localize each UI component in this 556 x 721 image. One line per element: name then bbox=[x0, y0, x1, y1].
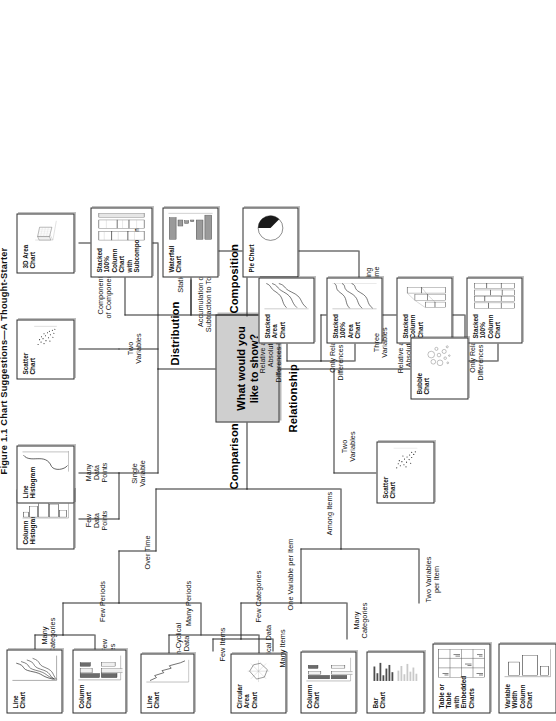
connector-manyitems-h bbox=[272, 638, 273, 651]
card-caption: Table or Table with Embedded Charts bbox=[433, 679, 489, 712]
card-column-chart-single-few-categories[interactable]: Column Chart bbox=[72, 649, 126, 713]
label-among-items: Among Items bbox=[325, 487, 333, 539]
connector-manycat-h bbox=[34, 634, 35, 649]
scatter-chart-relationship-icon bbox=[380, 446, 430, 472]
line-chart-non-cyclical-icon bbox=[144, 658, 190, 683]
stacked-100-column-chart-icon bbox=[470, 282, 518, 310]
card-bar-chart-many-items[interactable]: Bar Chart bbox=[366, 651, 424, 713]
stacked-100-area-chart-icon bbox=[330, 282, 378, 310]
card-scatter-chart-distribution[interactable]: Scatter Chart bbox=[16, 319, 74, 379]
connector-comp-manyperiods-h bbox=[320, 314, 321, 361]
connector-onlyrel-many-h bbox=[354, 343, 355, 361]
connector-relationship-split bbox=[333, 368, 334, 473]
connector-components-h bbox=[124, 273, 125, 315]
connector-rel-threevars-v bbox=[333, 368, 410, 369]
bubble-chart-icon bbox=[414, 342, 464, 368]
card-caption: Bar Chart bbox=[367, 683, 423, 712]
stacked-column-chart-icon bbox=[400, 282, 448, 310]
card-stacked-column-chart[interactable]: Stacked Column Chart bbox=[396, 277, 452, 343]
card-table-embedded-charts[interactable]: Table or Table with Embedded Charts bbox=[432, 643, 490, 713]
card-3d-area-chart[interactable]: 3D Area Chart bbox=[16, 213, 74, 273]
connector-manyitems-v bbox=[240, 638, 272, 639]
card-stacked-area-chart[interactable]: Stacked Area Chart bbox=[258, 277, 314, 343]
connector-amongitems-col bbox=[340, 548, 418, 549]
scatter-chart-distribution-icon bbox=[20, 324, 70, 349]
card-caption: 3D Area Chart bbox=[17, 244, 73, 272]
card-line-chart-non-cyclical[interactable]: Line Chart bbox=[140, 653, 194, 713]
category-distribution: Distribution bbox=[168, 301, 180, 365]
label-many-data-points: Many Data Points bbox=[84, 451, 108, 493]
label-two-variables-per-item: Two Variables per Item bbox=[424, 547, 441, 611]
connector-center-relationship bbox=[277, 368, 333, 369]
column-chart-few-categories-icon bbox=[76, 654, 122, 681]
label-few-data-points: Few Data Points bbox=[84, 499, 108, 541]
card-caption: Scatter Chart bbox=[17, 350, 73, 378]
card-variable-width-column-chart[interactable]: Variable Width Column Chart bbox=[498, 643, 556, 713]
card-caption: Circular Area Chart bbox=[231, 684, 285, 712]
card-caption: Column Chart bbox=[301, 683, 355, 712]
card-scatter-chart-relationship[interactable]: Scatter Chart bbox=[376, 441, 434, 503]
connector-manyperiods-h bbox=[200, 602, 201, 635]
card-caption: Line Histogram bbox=[17, 474, 73, 502]
card-line-histogram[interactable]: Line Histogram bbox=[16, 445, 74, 503]
connector-rel-twovars-v bbox=[333, 472, 376, 473]
label-three-variables-relationship: Three Variables bbox=[372, 319, 389, 365]
connector-onevarperitem-v bbox=[300, 548, 341, 549]
connector-distribution-split bbox=[157, 243, 158, 473]
connector-onlyrel-few-h bbox=[497, 343, 498, 361]
card-caption: Line Chart bbox=[141, 684, 193, 712]
label-many-items: Many Items bbox=[278, 623, 286, 673]
connector-fewperiods-v bbox=[62, 602, 119, 603]
label-many-categories-items: Many Categories bbox=[352, 595, 369, 645]
card-caption: Scatter Chart bbox=[377, 473, 433, 502]
column-chart-few-items-icon bbox=[304, 656, 352, 682]
connector-center-comparison bbox=[246, 422, 247, 489]
label-two-variables-relationship: Two Variables bbox=[340, 423, 357, 469]
label-over-time: Over Time bbox=[143, 529, 151, 575]
card-caption: Stacked 100% Column Chart with Subcompon… bbox=[91, 243, 151, 276]
circular-area-chart-icon bbox=[234, 658, 282, 683]
connector-manycat-items-v bbox=[300, 602, 346, 603]
label-few-categories: Few Categories bbox=[254, 565, 262, 627]
label-few-periods: Few Periods bbox=[98, 577, 106, 625]
card-caption: Stacked 100% Column Chart bbox=[467, 311, 521, 342]
connector-relabs-many-h bbox=[286, 343, 287, 361]
line-histogram-icon bbox=[20, 450, 70, 473]
connector-fewitems-h bbox=[212, 638, 213, 651]
category-relationship: Relationship bbox=[286, 364, 298, 432]
line-chart-many-categories-icon bbox=[10, 654, 58, 681]
card-stacked-100-column-chart[interactable]: Stacked 100% Column Chart bbox=[466, 277, 522, 343]
bar-chart-many-items-icon bbox=[370, 656, 420, 682]
card-bubble-chart[interactable]: Bubble Chart bbox=[410, 337, 468, 399]
card-caption: Stacked Area Chart bbox=[259, 311, 313, 342]
label-single-variable: Single Variable bbox=[130, 449, 147, 497]
card-column-chart-few-items[interactable]: Column Chart bbox=[300, 651, 356, 713]
card-stacked-100-column-with-subcomponents[interactable]: Stacked 100% Column Chart with Subcompon… bbox=[90, 207, 152, 277]
card-line-chart-many-categories[interactable]: Line Chart bbox=[6, 649, 62, 713]
card-caption: Pie Chart bbox=[243, 244, 297, 276]
connector-noncyclical-h bbox=[168, 634, 169, 653]
card-pie-chart[interactable]: Pie Chart bbox=[242, 207, 298, 277]
card-caption: Variable Width Column Chart bbox=[499, 679, 555, 712]
connector-fewcat-items-v bbox=[240, 602, 301, 603]
card-caption: Line Chart bbox=[7, 682, 61, 712]
connector-accumulation-h bbox=[190, 279, 191, 315]
connector-singlevariable-h bbox=[118, 472, 119, 519]
waterfall-chart-icon bbox=[166, 212, 214, 242]
stacked-area-chart-icon bbox=[262, 282, 310, 310]
table-embedded-charts-icon bbox=[436, 648, 486, 678]
connector-center-distribution bbox=[157, 368, 215, 369]
card-caption: Waterfall Chart bbox=[163, 243, 217, 276]
connector-fewperiods-split bbox=[62, 602, 63, 635]
connector-twovarsperitem-h bbox=[418, 548, 419, 603]
connector-cyclical-h bbox=[258, 634, 259, 653]
card-waterfall-chart[interactable]: Waterfall Chart bbox=[162, 207, 218, 277]
label-few-items: Few Items bbox=[218, 621, 226, 667]
label-two-variables-distribution: Two Variables bbox=[126, 325, 143, 371]
figure-title: Figure 1.1 Chart Suggestions—A Thought-S… bbox=[0, 0, 8, 721]
category-comparison: Comparison bbox=[227, 423, 239, 489]
connector-comparison-split bbox=[155, 488, 156, 551]
connector-onevarperitem-h bbox=[300, 548, 301, 603]
card-caption: Bubble Chart bbox=[411, 369, 467, 398]
